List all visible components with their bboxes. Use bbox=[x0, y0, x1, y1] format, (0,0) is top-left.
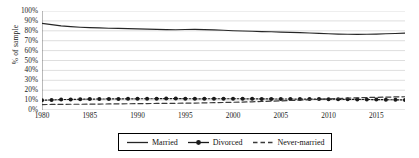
legend-label: Divorced bbox=[213, 138, 243, 147]
y-tick-label: 60% bbox=[25, 47, 38, 54]
y-tick-label: 20% bbox=[25, 86, 38, 93]
y-tick-label: 30% bbox=[25, 76, 38, 83]
data-point-marker bbox=[202, 97, 206, 101]
data-point-marker bbox=[393, 98, 397, 102]
y-tick-label: 100% bbox=[21, 7, 38, 14]
legend-item-never-married[interactable]: Never-married bbox=[252, 138, 325, 147]
legend-label: Never-married bbox=[278, 138, 325, 147]
chart-legend: MarriedDivorcedNever-married bbox=[118, 133, 332, 151]
data-point-marker bbox=[250, 97, 254, 101]
data-point-marker bbox=[145, 97, 149, 101]
data-point-marker bbox=[260, 97, 264, 101]
data-point-marker bbox=[164, 97, 168, 101]
x-tick-label: 1980 bbox=[35, 112, 50, 120]
solid-line-key bbox=[126, 138, 149, 147]
plot-svg bbox=[42, 11, 405, 110]
y-axis-tick-labels: 0%10%20%30%40%50%60%70%80%90%100% bbox=[0, 11, 38, 110]
data-point-marker bbox=[42, 98, 44, 102]
data-point-marker bbox=[116, 97, 120, 101]
legend-item-divorced[interactable]: Divorced bbox=[187, 138, 243, 147]
dotted-marker-line-key bbox=[187, 138, 210, 147]
plot-area bbox=[42, 11, 405, 110]
y-tick-label: 10% bbox=[25, 96, 38, 103]
dashed-line-key bbox=[252, 138, 275, 147]
data-point-marker bbox=[107, 97, 111, 101]
y-tick-label: 80% bbox=[25, 27, 38, 34]
data-point-marker bbox=[59, 98, 63, 102]
data-point-marker bbox=[69, 97, 73, 101]
data-point-marker bbox=[269, 97, 273, 101]
data-point-marker bbox=[174, 97, 178, 101]
data-point-marker bbox=[212, 97, 216, 101]
x-axis-tick-labels: 19801985199019952000200520102015 bbox=[42, 112, 405, 124]
legend-label: Married bbox=[152, 138, 178, 147]
data-point-marker bbox=[374, 98, 378, 102]
legend-item-married[interactable]: Married bbox=[126, 138, 178, 147]
data-point-marker bbox=[97, 97, 101, 101]
data-point-marker bbox=[126, 97, 130, 101]
x-tick-label: 2010 bbox=[321, 112, 336, 120]
data-point-marker bbox=[155, 97, 159, 101]
y-tick-label: 70% bbox=[25, 37, 38, 44]
line-chart: % of sample 0%10%20%30%40%50%60%70%80%90… bbox=[0, 0, 419, 158]
y-tick-label: 50% bbox=[25, 57, 38, 64]
data-point-marker bbox=[136, 97, 140, 101]
data-point-marker bbox=[78, 97, 82, 101]
data-point-marker bbox=[222, 97, 226, 101]
data-point-marker bbox=[231, 97, 235, 101]
data-point-marker bbox=[88, 97, 92, 101]
x-tick-label: 1985 bbox=[82, 112, 97, 120]
x-tick-label: 2015 bbox=[369, 112, 384, 120]
data-point-marker bbox=[403, 98, 405, 102]
data-point-marker bbox=[50, 98, 54, 102]
x-tick-label: 2000 bbox=[226, 112, 241, 120]
series-line-married bbox=[42, 23, 405, 34]
x-tick-label: 1995 bbox=[178, 112, 193, 120]
x-tick-label: 1990 bbox=[130, 112, 145, 120]
data-point-marker bbox=[241, 97, 245, 101]
y-tick-label: 40% bbox=[25, 66, 38, 73]
x-tick-label: 2005 bbox=[274, 112, 289, 120]
data-point-marker bbox=[183, 97, 187, 101]
data-point-marker bbox=[193, 97, 197, 101]
data-point-marker bbox=[384, 98, 388, 102]
y-tick-label: 90% bbox=[25, 17, 38, 24]
